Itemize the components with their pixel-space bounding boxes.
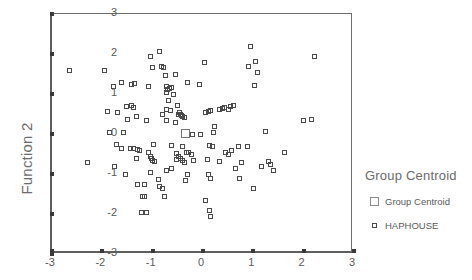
data-point-marker [191, 158, 196, 163]
data-point-marker [197, 82, 202, 87]
data-point-marker [156, 177, 161, 182]
data-point-marker [160, 112, 165, 117]
legend-item-haphouse[interactable]: HAPHOUSE [365, 220, 472, 231]
y-axis-tick-label: 0 [77, 126, 117, 138]
data-point-marker [182, 160, 187, 165]
data-point-marker [263, 129, 268, 134]
x-axis-tick [151, 249, 155, 253]
data-point-marker [146, 84, 151, 89]
data-point-marker [131, 105, 136, 110]
data-point-marker [180, 144, 185, 149]
scatter-plot-figure: Function 2 3210-1-2-3 -3-2-10123 Group C… [0, 0, 472, 280]
data-point-marker [157, 49, 162, 54]
data-point-marker [252, 83, 257, 88]
data-point-marker [251, 186, 256, 191]
legend-item-group-centroid[interactable]: Group Centroid [365, 196, 472, 207]
data-point-marker [198, 132, 203, 137]
data-point-marker [137, 148, 142, 153]
x-axis-tick-label: 2 [287, 256, 317, 268]
y-axis-tick [50, 132, 54, 136]
x-axis-tick [251, 249, 255, 253]
data-point-marker [119, 146, 124, 151]
data-point-marker [246, 64, 251, 69]
data-point-marker [309, 117, 314, 122]
x-axis-tick-label: -2 [85, 256, 115, 268]
y-axis-tick [50, 172, 54, 176]
data-point-marker [161, 65, 166, 70]
data-point-marker [202, 60, 207, 65]
x-axis-tick [50, 249, 54, 253]
data-point-marker [239, 160, 244, 165]
data-point-marker [190, 132, 195, 137]
data-point-marker [151, 142, 156, 147]
data-point-marker [166, 98, 171, 103]
data-point-marker [237, 176, 242, 181]
data-point-marker [189, 152, 194, 157]
x-axis-tick-label: 1 [236, 256, 266, 268]
data-point-marker [231, 103, 236, 108]
x-axis-tick-label: -1 [136, 256, 166, 268]
data-point-marker [148, 54, 153, 59]
data-point-marker [168, 108, 173, 113]
data-point-marker [169, 166, 174, 171]
data-point-marker [174, 157, 179, 162]
data-point-marker [150, 65, 155, 70]
data-point-marker [208, 214, 213, 219]
y-axis-tick [50, 12, 54, 16]
data-point-marker [173, 72, 178, 77]
data-point-marker [134, 156, 139, 161]
data-point-marker [146, 150, 151, 155]
y-axis-tick [50, 52, 54, 56]
data-point-marker [185, 80, 190, 85]
data-point-marker [210, 144, 215, 149]
data-point-marker [212, 124, 217, 129]
legend-swatch-wrap [365, 197, 383, 206]
data-point-marker [169, 85, 174, 90]
y-axis-label: Function 2 [18, 89, 35, 229]
data-point-marker [162, 194, 167, 199]
data-point-marker [268, 162, 273, 167]
data-point-marker [203, 198, 208, 203]
data-point-marker [207, 208, 212, 213]
data-point-marker [182, 115, 187, 120]
data-point-marker [301, 118, 306, 123]
x-axis-tick [201, 249, 205, 253]
data-point-marker [169, 143, 174, 148]
data-point-marker [229, 148, 234, 153]
data-point-marker [142, 182, 147, 187]
data-point-marker [177, 110, 182, 115]
data-point-marker [148, 170, 153, 175]
data-point-marker [132, 81, 137, 86]
y-axis-tick-label: -1 [77, 166, 117, 178]
data-point-marker [175, 103, 180, 108]
data-point-marker [271, 168, 276, 173]
data-point-marker [67, 68, 72, 73]
y-axis-tick [50, 92, 54, 96]
data-point-marker [208, 108, 213, 113]
data-point-marker [144, 118, 149, 123]
centroid-marker [181, 129, 190, 138]
data-point-marker [163, 73, 168, 78]
x-axis-tick [302, 249, 306, 253]
data-point-marker [217, 159, 222, 164]
data-point-marker [119, 80, 124, 85]
y-axis-tick-label: 1 [77, 86, 117, 98]
data-point-marker [255, 70, 260, 75]
data-point-marker [245, 144, 250, 149]
data-point-marker [134, 114, 139, 119]
open-square-large-icon [370, 197, 379, 206]
x-axis-tick [352, 249, 356, 253]
data-point-marker [144, 210, 149, 215]
data-point-marker [282, 150, 287, 155]
data-point-marker [152, 159, 157, 164]
data-point-marker [233, 166, 238, 171]
x-axis-tick-label: -3 [35, 256, 65, 268]
data-point-marker [253, 59, 258, 64]
legend-title: Group Centroid [365, 168, 472, 183]
y-axis-tick-label: 2 [77, 46, 117, 58]
open-square-small-icon [372, 223, 377, 228]
legend-item-label: Group Centroid [385, 196, 450, 207]
data-point-marker [259, 164, 264, 169]
data-point-marker [208, 176, 213, 181]
x-axis-tick-label: 3 [337, 256, 367, 268]
